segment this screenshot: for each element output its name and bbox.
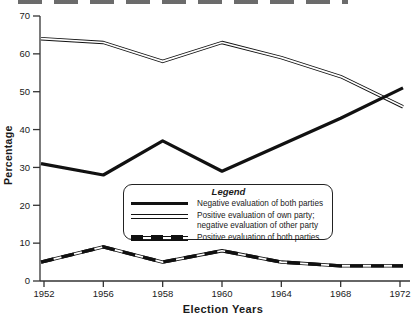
series-line-inner-gap (41, 39, 403, 107)
x-tick-label: 1960 (211, 288, 232, 299)
x-tick-label: 1968 (330, 288, 351, 299)
series-line (41, 88, 403, 175)
x-tick-label: 1964 (271, 288, 292, 299)
series-positive-both (41, 247, 403, 266)
legend: Legend Negative evaluation of both parti… (123, 184, 333, 240)
x-axis-title: Election Years (183, 303, 264, 315)
x-tick-label: 1956 (93, 288, 114, 299)
legend-item-positive-own-negative-other: Positive evaluation of own party; negati… (131, 211, 326, 231)
legend-item-positive-both: Positive evaluation of both parties (131, 233, 326, 243)
line-chart: Percentage Election Years 01020304050607… (0, 0, 418, 326)
series-negative-both (41, 88, 403, 175)
series-line-outer (41, 39, 403, 107)
y-tick-label: 10 (19, 237, 30, 248)
double-line-swatch (131, 214, 188, 219)
x-tick-label: 1952 (33, 288, 54, 299)
thick-solid-line-swatch (131, 202, 188, 205)
x-tick-label: 1958 (152, 288, 173, 299)
legend-item-label: Positive evaluation of own party; negati… (197, 211, 318, 231)
figure: Percentage Election Years 01020304050607… (0, 0, 418, 326)
y-tick-label: 40 (19, 124, 30, 135)
series-positive-own-negative-other (41, 39, 403, 107)
legend-title: Legend (131, 186, 326, 197)
series-line-outer (41, 247, 403, 266)
y-axis-title: Percentage (2, 125, 14, 185)
x-tick-label: 1972 (389, 288, 410, 299)
double-dashed-line-swatch (131, 236, 188, 241)
y-tick-label: 50 (19, 86, 30, 97)
legend-item-negative-both: Negative evaluation of both parties (131, 199, 326, 209)
y-tick-label: 20 (19, 200, 30, 211)
y-tick-label: 30 (19, 162, 30, 173)
y-tick-label: 70 (19, 10, 30, 21)
y-tick-label: 60 (19, 48, 30, 59)
legend-item-label: Positive evaluation of both parties (197, 233, 319, 243)
legend-item-label: Negative evaluation of both parties (197, 199, 323, 209)
y-tick-label: 0 (25, 275, 30, 286)
